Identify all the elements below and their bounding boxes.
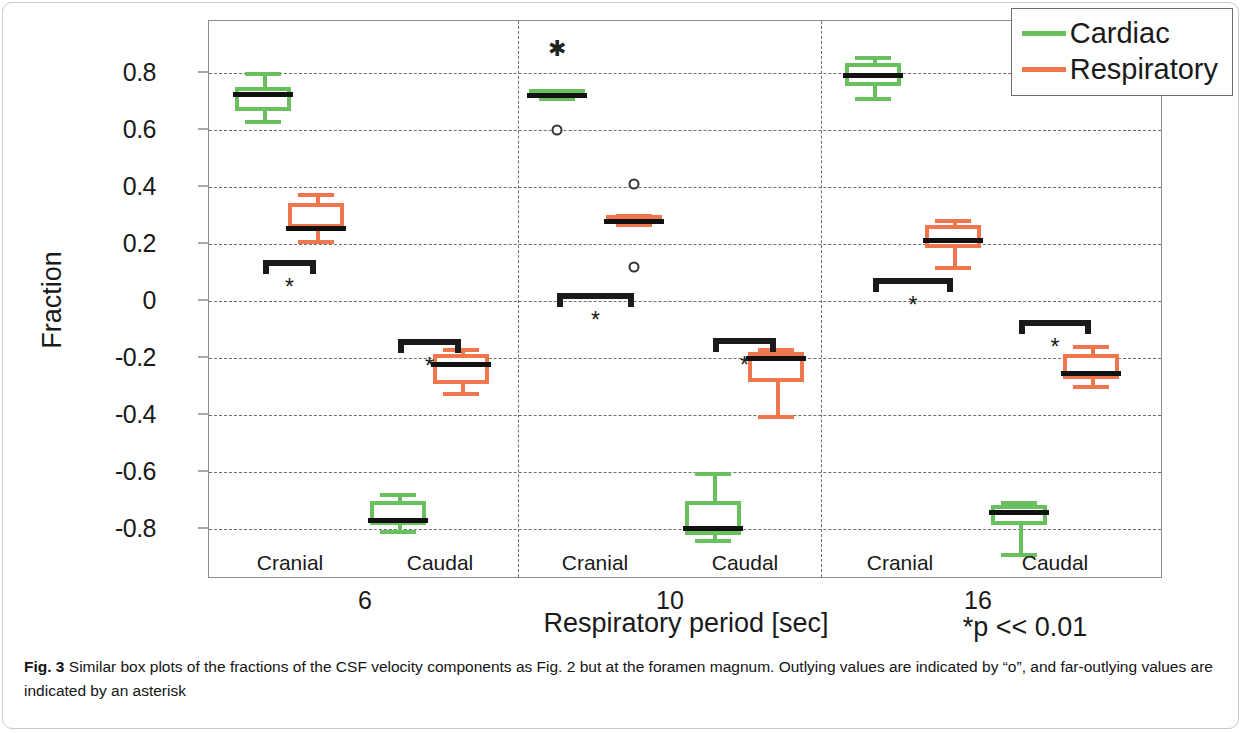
y-tick-mark-0.8: [198, 72, 208, 73]
bracket-left-leg: [1019, 320, 1025, 334]
legend-label-respiratory: Respiratory: [1070, 55, 1218, 84]
bracket-left-leg: [873, 278, 879, 292]
y-tick-mark-0.4: [198, 186, 208, 187]
boxplot-16-caudal-cardiac: [209, 21, 1161, 577]
x-sub-label-cranial-4: Cranial: [867, 551, 934, 575]
bracket-right-leg: [310, 260, 316, 274]
y-tick-label--0.6: -0.6: [115, 457, 156, 486]
y-axis-labels: 0.80.60.40.20-0.2-0.4-0.6-0.8: [0, 0, 208, 578]
x-sub-label-cranial-0: Cranial: [257, 551, 324, 575]
figure-page: 0.80.60.40.20-0.2-0.4-0.6-0.8 Fraction ✱…: [0, 0, 1243, 733]
y-axis-title: Fraction: [37, 251, 68, 349]
bracket-significance-marker: *: [591, 309, 600, 332]
x-sub-label-caudal-3: Caudal: [712, 551, 779, 575]
bracket-top-bar: [557, 293, 634, 299]
bracket-top-bar: [1019, 320, 1091, 326]
y-tick-label-0: 0: [143, 286, 156, 315]
y-tick-label-0.8: 0.8: [123, 58, 156, 87]
bracket-left-leg: [263, 260, 269, 274]
bracket-right-leg: [770, 338, 776, 352]
legend-color-swatch-respiratory: [1022, 67, 1066, 72]
x-axis-title: Respiratory period [sec]: [543, 608, 828, 639]
chart-legend: Cardiac Respiratory: [1011, 8, 1233, 96]
legend-label-cardiac: Cardiac: [1070, 19, 1170, 48]
bracket-significance-marker: *: [740, 354, 749, 377]
y-tick-mark-0: [198, 300, 208, 301]
bracket-significance-marker: *: [909, 294, 918, 317]
p-value-annotation: *p << 0.01: [963, 612, 1088, 643]
bracket-top-bar: [398, 339, 461, 345]
y-tick-mark-0.6: [198, 129, 208, 130]
bracket-right-leg: [628, 293, 634, 307]
bracket-top-bar: [263, 260, 316, 266]
bracket-significance-marker: *: [1051, 336, 1060, 359]
median-line: [989, 510, 1049, 515]
y-tick-label-0.2: 0.2: [123, 229, 156, 258]
y-tick-label--0.4: -0.4: [115, 400, 156, 429]
y-tick-mark--0.6: [198, 471, 208, 472]
bracket-right-leg: [947, 278, 953, 292]
y-tick-label--0.2: -0.2: [115, 343, 156, 372]
plot-area: ✱******: [208, 20, 1162, 578]
bracket-top-bar: [873, 278, 953, 284]
legend-color-swatch-cardiac: [1022, 31, 1066, 36]
y-tick-mark--0.4: [198, 414, 208, 415]
figure-caption-text: Similar box plots of the fractions of th…: [24, 658, 1213, 699]
y-tick-mark-0.2: [198, 243, 208, 244]
bracket-significance-marker: *: [285, 276, 294, 299]
bracket-left-leg: [398, 339, 404, 353]
x-sub-label-cranial-2: Cranial: [562, 551, 629, 575]
x-sub-label-caudal-5: Caudal: [1022, 551, 1089, 575]
figure-caption-label: Fig. 3: [24, 658, 64, 675]
y-tick-mark--0.8: [198, 528, 208, 529]
bracket-right-leg: [1085, 320, 1091, 334]
x-group-label-6: 6: [358, 586, 372, 615]
legend-entry-cardiac: Cardiac: [1022, 15, 1218, 51]
figure-caption: Fig. 3 Similar box plots of the fraction…: [24, 655, 1220, 703]
x-sub-label-caudal-1: Caudal: [407, 551, 474, 575]
y-tick-label--0.8: -0.8: [115, 514, 156, 543]
bracket-significance-marker: *: [425, 355, 434, 378]
whisker-lower: [1019, 525, 1023, 554]
bracket-left-leg: [557, 293, 563, 307]
bracket-right-leg: [455, 339, 461, 353]
bracket-top-bar: [713, 338, 776, 344]
chart-region: 0.80.60.40.20-0.2-0.4-0.6-0.8 Fraction ✱…: [0, 0, 1243, 640]
y-tick-label-0.4: 0.4: [123, 172, 156, 201]
y-tick-mark--0.2: [198, 357, 208, 358]
legend-entry-respiratory: Respiratory: [1022, 51, 1218, 87]
x-group-label-16: 16: [964, 586, 992, 615]
y-tick-label-0.6: 0.6: [123, 115, 156, 144]
bracket-left-leg: [713, 338, 719, 352]
